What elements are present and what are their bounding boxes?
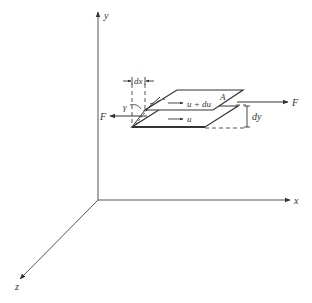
force-right-label: F: [291, 97, 299, 108]
coordinate-axes: [20, 12, 290, 279]
x-axis-label: x: [293, 195, 299, 206]
dx-label: dx: [134, 76, 143, 86]
upper-velocity-label: u + du: [187, 99, 212, 109]
area-label: A: [219, 92, 226, 102]
gamma-label: γ: [123, 102, 127, 112]
z-axis: [20, 200, 98, 279]
y-axis-label: y: [103, 10, 109, 21]
z-axis-label: z: [14, 281, 19, 292]
shear-diagram: y x z dx dy γ F F: [0, 0, 312, 303]
dy-dimension: [244, 106, 250, 127]
force-left-label: F: [99, 111, 107, 122]
lower-velocity-label: u: [187, 114, 192, 124]
dy-label: dy: [252, 111, 262, 122]
